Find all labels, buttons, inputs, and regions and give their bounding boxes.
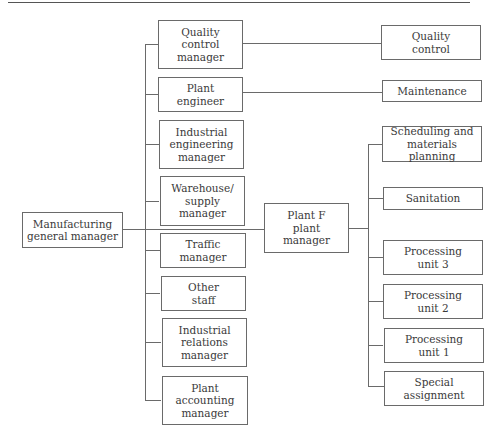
- node-maintenance: Maintenance: [382, 80, 482, 102]
- node-processing-unit-2: Processing unit 2: [383, 284, 483, 319]
- connector-staff-7: [145, 400, 161, 401]
- node-label: Maintenance: [397, 85, 466, 98]
- connector-unit-0: [368, 144, 382, 145]
- node-processing-unit-1: Processing unit 1: [384, 328, 484, 363]
- node-scheduling-materials-planning: Scheduling and materials planning: [382, 126, 482, 162]
- node-quality-control: Quality control: [381, 25, 481, 60]
- node-label: Special assignment: [403, 376, 464, 401]
- connector-maintenance-link: [243, 92, 382, 93]
- node-label: Other staff: [188, 281, 219, 306]
- node-label: Industrial relations manager: [179, 324, 231, 362]
- node-label: Plant accounting manager: [176, 382, 235, 420]
- node-industrial-engineering-manager: Industrial engineering manager: [159, 120, 244, 169]
- connector-staff-1: [145, 94, 158, 95]
- node-other-staff: Other staff: [161, 276, 246, 311]
- node-label: Traffic manager: [179, 238, 226, 263]
- node-label: Warehouse/ supply manager: [171, 182, 233, 220]
- connector-staff-4: [145, 250, 160, 251]
- connector-unit-3: [368, 301, 383, 302]
- connector-units-spine: [368, 144, 369, 387]
- top-rule: [8, 2, 470, 3]
- connector-staff-3: [145, 201, 159, 202]
- connector-plant-manager-to-units: [349, 228, 368, 229]
- connector-staff-2: [145, 144, 159, 145]
- connector-staff-0: [145, 44, 158, 45]
- node-plant-engineer: Plant engineer: [158, 77, 243, 112]
- node-warehouse-supply-manager: Warehouse/ supply manager: [160, 176, 245, 226]
- node-label: Plant F plant manager: [283, 209, 330, 247]
- node-label: Scheduling and materials planning: [385, 125, 479, 163]
- node-label: Sanitation: [406, 192, 461, 205]
- connector-quality-control-link: [243, 43, 381, 44]
- node-label: Industrial engineering manager: [169, 126, 233, 164]
- node-plant-accounting-manager: Plant accounting manager: [162, 376, 248, 425]
- node-label: Manufacturing general manager: [27, 218, 118, 243]
- node-label: Quality control: [412, 30, 451, 55]
- connector-unit-2: [368, 257, 383, 258]
- node-label: Processing unit 2: [404, 289, 462, 314]
- node-plant-f-plant-manager: Plant F plant manager: [264, 203, 349, 253]
- connector-staff-spine: [145, 44, 146, 401]
- node-industrial-relations-manager: Industrial relations manager: [162, 318, 247, 367]
- connector-unit-4: [368, 345, 383, 346]
- node-special-assignment: Special assignment: [384, 371, 484, 406]
- node-quality-control-manager: Quality control manager: [158, 20, 243, 69]
- node-processing-unit-3: Processing unit 3: [383, 240, 483, 275]
- node-sanitation: Sanitation: [383, 187, 483, 210]
- connector-unit-5: [368, 386, 384, 387]
- node-manufacturing-general-manager: Manufacturing general manager: [22, 212, 123, 248]
- node-label: Processing unit 3: [404, 245, 462, 270]
- node-label: Processing unit 1: [405, 333, 463, 358]
- connector-unit-1: [368, 198, 383, 199]
- node-label: Plant engineer: [177, 82, 224, 107]
- node-label: Quality control manager: [177, 26, 224, 64]
- node-traffic-manager: Traffic manager: [160, 233, 246, 268]
- connector-staff-6: [145, 342, 161, 343]
- connector-staff-5: [145, 293, 160, 294]
